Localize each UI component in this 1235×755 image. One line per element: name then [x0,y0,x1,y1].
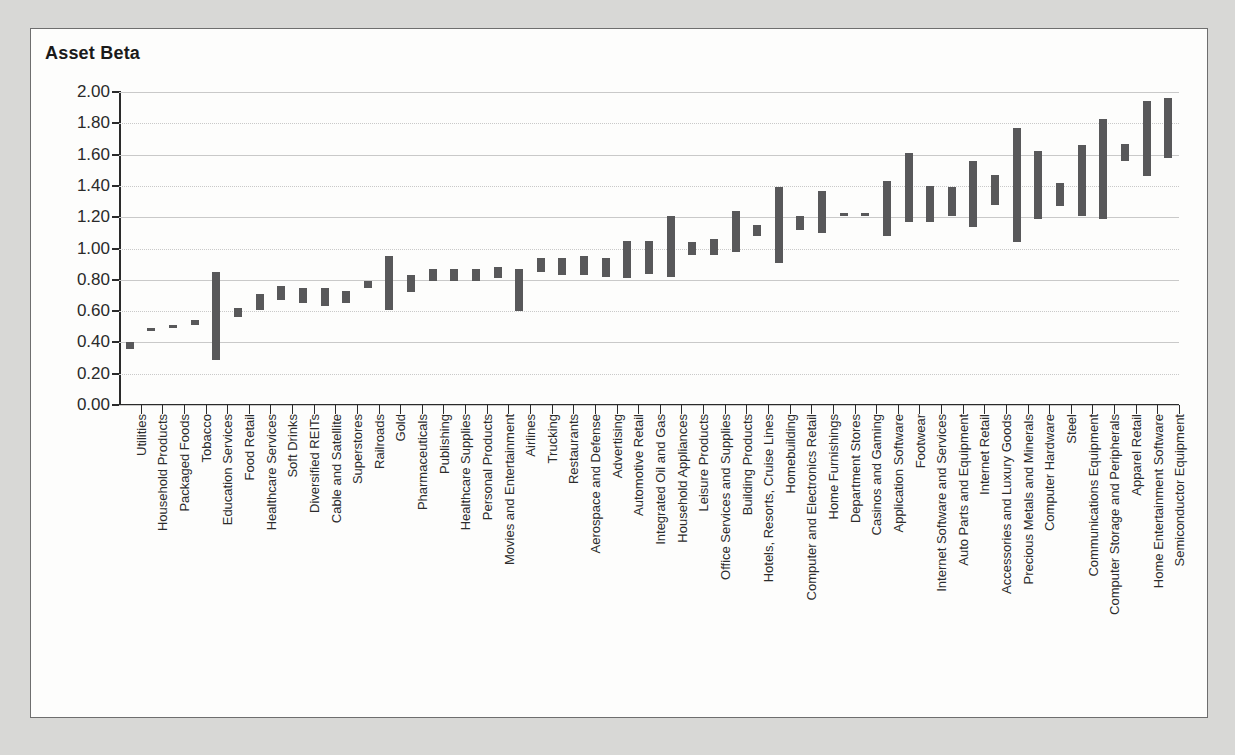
x-tick-mark [552,405,553,414]
x-axis-label: Computer Storage and Peripherals [1108,414,1121,615]
x-axis-label: Steel [1065,414,1078,444]
x-axis-label: Casinos and Gaming [870,414,883,535]
x-axis-label: Tobacco [200,414,213,462]
x-axis-label: Trucking [546,414,559,463]
y-tick-label: 0.60 [77,301,110,321]
y-tick-mark [112,310,119,312]
x-axis-label: Pharmaceuticals [416,414,429,510]
x-tick-mark [963,405,964,414]
x-axis-label: Gold [394,414,407,441]
x-axis-label: Internet Software and Services [935,414,948,592]
y-tick-mark [112,185,119,187]
x-axis-label: Application Software [892,414,905,533]
x-tick-mark [162,405,163,414]
x-tick-mark [508,405,509,414]
x-axis-label: Aerospace and Defense [589,414,602,553]
x-axis-label: Leisure Products [697,414,710,512]
x-axis-label: Personal Products [481,414,494,520]
x-axis-label: Movies and Entertainment [503,414,516,565]
x-tick-mark [1071,405,1072,414]
x-tick-mark [487,405,488,414]
x-tick-mark [443,405,444,414]
x-tick-mark [941,405,942,414]
y-tick-mark [112,216,119,218]
y-tick-label: 0.00 [77,395,110,415]
x-tick-mark [422,405,423,414]
x-axis-label: Auto Parts and Equipment [957,414,970,566]
x-axis-label: Education Services [221,414,234,525]
x-tick-mark [790,405,791,414]
x-axis-label: Internet Retail [978,414,991,495]
y-tick-mark [112,154,119,156]
x-axis-label: Computer Hardware [1043,414,1056,531]
y-tick-mark [112,248,119,250]
x-axis-label: Integrated Oil and Gas [654,414,667,545]
x-axis-label: Semiconductor Equipment [1173,414,1186,566]
x-axis-label: Department Stores [849,414,862,523]
y-tick-label: 0.40 [77,332,110,352]
x-tick-mark [617,405,618,414]
x-tick-mark [314,405,315,414]
x-axis-label: Footwear [914,414,927,468]
x-tick-mark [768,405,769,414]
x-axis-label: Superstores [351,414,364,484]
x-axis-label: Household Appliances [676,414,689,543]
x-axis-label: Communications Equipment [1087,414,1100,577]
x-axis-label: Automotive Retail [632,414,645,516]
screenshot-page: Asset Beta 0.000.200.400.600.801.001.201… [0,0,1235,755]
x-tick-mark [141,405,142,414]
x-tick-mark [811,405,812,414]
x-axis-label: Utilities [135,414,148,456]
page-title: Asset Beta [45,43,140,64]
x-tick-mark [1136,405,1137,414]
x-axis-label: Home Furnishings [827,414,840,520]
x-axis-label: Cable and Satellite [330,414,343,523]
x-tick-mark [725,405,726,414]
x-axis-label: Apparel Retail [1130,414,1143,496]
x-axis-label: Healthcare Services [265,414,278,530]
x-axis-label: Hotels, Resorts, Cruise Lines [762,414,775,582]
x-axis-label: Computer and Electronics Retail [805,414,818,600]
x-tick-mark [206,405,207,414]
x-axis-label: Publishing [438,414,451,474]
x-tick-mark [465,405,466,414]
y-tick-label: 1.20 [77,207,110,227]
y-tick-label: 0.80 [77,270,110,290]
x-tick-mark [898,405,899,414]
y-tick-mark [112,341,119,343]
x-tick-mark [1049,405,1050,414]
x-axis-label: Airlines [524,414,537,457]
x-tick-mark [595,405,596,414]
x-tick-mark [660,405,661,414]
x-tick-mark [400,405,401,414]
y-tick-mark [112,91,119,93]
x-axis-label: Homebuilding [784,414,797,494]
y-tick-label: 1.00 [77,239,110,259]
chart-panel: Asset Beta 0.000.200.400.600.801.001.201… [30,28,1208,718]
y-tick-label: 2.00 [77,82,110,102]
x-tick-mark [855,405,856,414]
x-axis-label: Food Retail [243,414,256,480]
x-axis-ticks [119,92,1179,405]
x-axis-label: Accessories and Luxury Goods [1000,414,1013,594]
x-axis-label: Advertising [611,414,624,478]
y-tick-mark [112,373,119,375]
x-tick-mark [249,405,250,414]
gridline [119,405,1179,406]
plot-area: 0.000.200.400.600.801.001.201.401.601.80… [119,92,1179,405]
x-axis-label: Office Services and Supplies [719,414,732,580]
x-tick-mark [227,405,228,414]
x-axis-label: Soft Drinks [286,414,299,478]
y-tick-label: 1.60 [77,145,110,165]
y-tick-mark [112,122,119,124]
x-tick-mark [876,405,877,414]
x-tick-mark [357,405,358,414]
x-axis-label: Healthcare Supplies [459,414,472,530]
x-axis-label: Precious Metals and Minerals [1022,414,1035,585]
x-tick-mark [1157,405,1158,414]
x-tick-mark [638,405,639,414]
x-tick-mark [1114,405,1115,414]
x-tick-mark [681,405,682,414]
x-axis-label: Home Entertainment Software [1152,414,1165,588]
x-tick-mark [919,405,920,414]
